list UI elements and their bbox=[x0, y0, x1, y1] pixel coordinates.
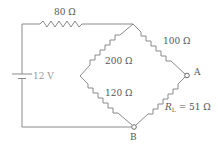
resistor-200-branch: 200 Ω bbox=[80, 24, 133, 76]
resistor-100-label: 100 Ω bbox=[163, 36, 191, 46]
circuit-diagram: 12 V 80 Ω 100 Ω 200 Ω 120 Ω RL = 51 Ω bbox=[0, 0, 218, 148]
resistor-load-value: = 51 Ω bbox=[176, 102, 211, 112]
wire-100-to-A bbox=[171, 61, 185, 74]
resistor-120-label: 120 Ω bbox=[105, 88, 133, 98]
resistor-100-branch: 100 Ω bbox=[133, 24, 191, 74]
terminal-A-label: A bbox=[193, 67, 201, 77]
resistor-120-branch: 120 Ω bbox=[80, 76, 133, 125]
wire-120-to-B bbox=[118, 113, 132, 125]
resistor-load-branch: RL = 51 Ω bbox=[136, 77, 211, 125]
wire-top-to-200 bbox=[120, 24, 133, 35]
resistor-80-zigzag bbox=[40, 21, 84, 27]
resistor-load-label: RL = 51 Ω bbox=[164, 102, 211, 113]
terminal-B[interactable] bbox=[132, 125, 137, 130]
wire-left-to-120 bbox=[80, 76, 88, 84]
wire-B-to-load bbox=[136, 114, 148, 125]
terminal-A[interactable] bbox=[185, 73, 190, 78]
wire-200-to-left bbox=[80, 65, 90, 76]
source-label: 12 V bbox=[33, 71, 54, 81]
wire-load-to-A bbox=[178, 77, 185, 84]
resistor-200-label: 200 Ω bbox=[105, 56, 133, 66]
resistor-80-label: 80 Ω bbox=[54, 7, 76, 17]
wire-top-to-100 bbox=[133, 24, 141, 32]
terminal-B-label: B bbox=[130, 132, 137, 142]
source-branch: 12 V bbox=[12, 24, 54, 127]
series-resistor-branch: 80 Ω bbox=[22, 7, 133, 27]
